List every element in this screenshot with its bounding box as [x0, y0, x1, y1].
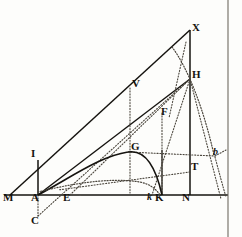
- point-label-C: C: [31, 215, 39, 226]
- dotted-curve-b-tail: [215, 157, 226, 197]
- point-label-G: G: [131, 141, 140, 152]
- point-label-N: N: [182, 192, 190, 203]
- geometric-figure: M A E k K N C I G V F T H X b ·: [0, 0, 242, 237]
- point-label-T: T: [191, 161, 198, 172]
- point-label-V: V: [132, 78, 140, 89]
- point-label-F: F: [161, 106, 168, 117]
- dotted-curve-H-b: [172, 47, 214, 155]
- point-label-H: H: [192, 69, 201, 80]
- tick-mark-after-E: ·: [79, 193, 81, 199]
- line-A-H: [38, 79, 190, 195]
- point-label-M: M: [3, 192, 13, 203]
- point-label-E: E: [63, 192, 70, 203]
- point-label-k: k: [147, 192, 152, 202]
- dotted-H-b-down: [190, 79, 221, 199]
- point-label-I: I: [31, 148, 35, 159]
- dotted-X-down-left: [169, 42, 186, 118]
- point-label-X: X: [192, 22, 200, 33]
- point-label-b: b: [213, 147, 218, 157]
- point-label-K: K: [155, 192, 164, 203]
- dotted-curve-A-k: [38, 180, 160, 195]
- solid-curve-A-G-K: [38, 152, 162, 195]
- point-label-A: A: [31, 192, 39, 203]
